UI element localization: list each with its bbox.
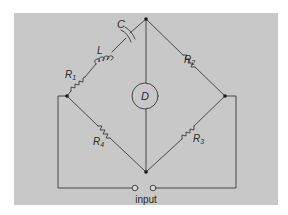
node-top [144, 17, 148, 21]
node-bottom [144, 170, 148, 174]
input-terminal-right[interactable] [150, 185, 156, 191]
node-left [65, 94, 69, 98]
node-right [223, 94, 227, 98]
label-c: C [117, 18, 125, 30]
label-l: L [97, 45, 103, 56]
bridge-circuit-diagram: C L R1 R2 R3 R4 D input [0, 0, 288, 215]
input-terminal-left[interactable] [132, 185, 138, 191]
label-input: input [135, 194, 157, 205]
label-d: D [141, 90, 149, 102]
